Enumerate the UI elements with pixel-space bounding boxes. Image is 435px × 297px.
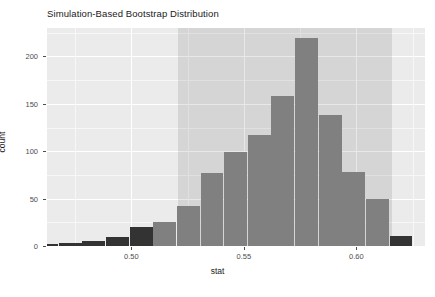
chart-title: Simulation-Based Bootstrap Distribution	[47, 8, 219, 19]
gridline-vertical	[131, 28, 132, 246]
gridline-vertical-minor	[413, 28, 414, 246]
histogram-bar	[177, 206, 200, 246]
histogram-bar	[295, 38, 318, 246]
y-axis-tick-mark	[43, 199, 46, 200]
chart-container: Simulation-Based Bootstrap Distribution …	[0, 0, 435, 297]
y-axis-tick-label: 50	[0, 194, 38, 203]
histogram-bar	[271, 96, 294, 246]
x-axis-tick-mark	[131, 247, 132, 250]
y-axis-tick-mark	[43, 246, 46, 247]
x-axis-tick-label: 0.60	[349, 252, 364, 261]
x-axis-tick-label: 0.55	[237, 252, 252, 261]
x-axis-tick-mark	[356, 247, 357, 250]
histogram-bar	[47, 244, 58, 246]
histogram-bar	[390, 236, 413, 246]
y-axis-tick-mark	[43, 151, 46, 152]
histogram-bar	[106, 237, 129, 246]
histogram-bar	[82, 241, 105, 246]
histogram-bar	[130, 227, 153, 246]
x-axis-tick-label: 0.50	[124, 252, 139, 261]
histogram-bar	[342, 172, 365, 246]
y-axis-tick-label: 150	[0, 99, 38, 108]
y-axis-tick-label: 200	[0, 52, 38, 61]
histogram-bar	[224, 152, 247, 246]
histogram-bar	[59, 243, 82, 246]
y-axis-tick-mark	[43, 104, 46, 105]
y-axis-label: count	[0, 132, 7, 153]
y-axis-tick-label: 0	[0, 242, 38, 251]
histogram-bar	[319, 115, 342, 246]
histogram-bar	[248, 135, 271, 246]
y-axis-tick-mark	[43, 56, 46, 57]
gridline-vertical-minor	[75, 28, 76, 246]
histogram-bar	[366, 199, 389, 246]
plot-panel	[47, 28, 425, 246]
x-axis-tick-mark	[244, 247, 245, 250]
histogram-bar	[153, 222, 176, 246]
histogram-bar	[201, 173, 224, 246]
x-axis-label: stat	[0, 266, 435, 276]
